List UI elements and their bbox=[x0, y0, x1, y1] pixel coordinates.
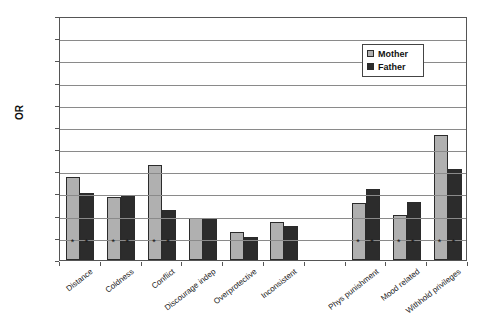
legend-swatch-mother-icon bbox=[367, 50, 374, 57]
legend-swatch-father-icon bbox=[367, 63, 374, 70]
x-axis-tick bbox=[222, 262, 223, 266]
significance-asterisk: * bbox=[452, 239, 456, 245]
significance-asterisk: * bbox=[125, 239, 129, 245]
x-axis-tick bbox=[181, 262, 182, 266]
gridline bbox=[60, 40, 466, 41]
x-axis-label: Inconsistent bbox=[260, 267, 299, 300]
legend-item-mother: Mother bbox=[367, 47, 419, 60]
gridline bbox=[60, 195, 466, 196]
gridline bbox=[60, 218, 466, 219]
gridline bbox=[60, 173, 466, 174]
x-axis-label: Coldness bbox=[104, 267, 136, 295]
significance-asterisk: * bbox=[166, 239, 170, 245]
y-axis-tick-mark bbox=[55, 194, 59, 195]
gridline bbox=[60, 107, 466, 108]
bar-father bbox=[80, 193, 94, 260]
significance-asterisk: * bbox=[111, 239, 115, 245]
y-axis-tick-mark bbox=[55, 17, 59, 18]
y-axis-title: OR bbox=[14, 105, 25, 120]
legend: Mother Father bbox=[362, 44, 424, 77]
bar-mother bbox=[270, 222, 284, 260]
x-axis-tick bbox=[426, 262, 427, 266]
significance-asterisk: * bbox=[356, 239, 360, 245]
legend-label-father: Father bbox=[378, 62, 406, 72]
bar-father bbox=[121, 196, 135, 260]
x-axis-tick bbox=[100, 262, 101, 266]
significance-asterisk: * bbox=[397, 239, 401, 245]
significance-asterisk: * bbox=[85, 239, 89, 245]
significance-asterisk: * bbox=[71, 239, 75, 245]
bar-father bbox=[407, 202, 421, 260]
legend-label-mother: Mother bbox=[378, 49, 408, 59]
x-axis-tick bbox=[345, 262, 346, 266]
x-axis-label: Overprotective bbox=[212, 267, 259, 306]
bar-father bbox=[284, 226, 298, 260]
x-axis-label: Distance bbox=[65, 267, 95, 293]
y-axis-tick-mark bbox=[55, 150, 59, 151]
bar-father bbox=[366, 189, 380, 260]
gridline bbox=[60, 85, 466, 86]
significance-asterisk: * bbox=[438, 239, 442, 245]
x-axis-tick bbox=[59, 262, 60, 266]
y-axis-tick-mark bbox=[55, 84, 59, 85]
significance-asterisk: * bbox=[370, 239, 374, 245]
x-axis-tick bbox=[141, 262, 142, 266]
x-axis-tick bbox=[263, 262, 264, 266]
x-axis-tick bbox=[385, 262, 386, 266]
y-axis-tick-mark bbox=[55, 217, 59, 218]
x-axis-label: Mood related bbox=[379, 267, 421, 303]
y-axis-tick-mark bbox=[55, 106, 59, 107]
gridline bbox=[60, 240, 466, 241]
bar-mother bbox=[107, 197, 121, 260]
significance-asterisk: * bbox=[411, 239, 415, 245]
or-bar-chart: OR 32.82.62.42.221.81.61.41.210.8 ******… bbox=[0, 0, 493, 328]
legend-item-father: Father bbox=[367, 60, 419, 73]
bar-mother bbox=[230, 232, 244, 260]
y-axis-tick-mark bbox=[55, 239, 59, 240]
y-axis-tick-mark bbox=[55, 128, 59, 129]
gridline bbox=[60, 151, 466, 152]
y-axis-tick-mark bbox=[55, 39, 59, 40]
x-axis-label: Phys punishment bbox=[327, 267, 381, 312]
y-axis-tick-mark bbox=[55, 172, 59, 173]
significance-asterisk: * bbox=[152, 239, 156, 245]
y-axis-tick-mark bbox=[55, 61, 59, 62]
x-axis-tick bbox=[467, 262, 468, 266]
x-axis-label: Conflict bbox=[150, 267, 177, 291]
gridline bbox=[60, 129, 466, 130]
bar-mother bbox=[352, 203, 366, 260]
x-axis-tick bbox=[304, 262, 305, 266]
